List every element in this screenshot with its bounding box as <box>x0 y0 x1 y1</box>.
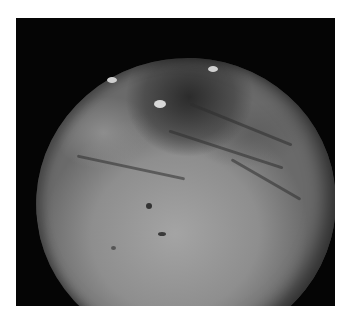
dark-crater <box>111 246 116 250</box>
dark-crater <box>146 203 152 209</box>
dark-crater <box>158 232 166 236</box>
bright-crater <box>107 77 117 83</box>
bright-crater <box>154 100 166 108</box>
bright-crater <box>208 66 218 72</box>
moon-disc <box>17 39 335 306</box>
moon-photograph <box>16 18 335 306</box>
